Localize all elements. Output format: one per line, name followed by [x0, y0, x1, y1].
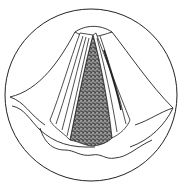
laryngoscopy-illustration: laryngoscopic view of the glottis — [0, 0, 182, 190]
larynx-drawing — [0, 0, 182, 190]
